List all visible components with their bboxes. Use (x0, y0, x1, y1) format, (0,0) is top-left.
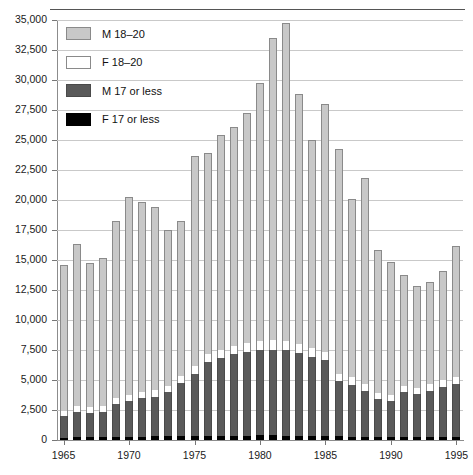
x-tick-mark (325, 440, 326, 445)
bar[interactable] (439, 271, 447, 440)
bar[interactable] (335, 149, 343, 440)
segment-f-17-or-less (374, 437, 382, 440)
legend-item-f-18-20[interactable]: F 18–20 (66, 53, 162, 72)
segment-f-17-or-less (387, 437, 395, 440)
x-tick-label: 1985 (305, 450, 345, 461)
segment-f-17-or-less (230, 436, 238, 440)
segment-f-17-or-less (125, 437, 133, 440)
bar[interactable] (230, 127, 238, 440)
legend-label: M 18–20 (102, 28, 145, 40)
segment-m-18-20 (99, 258, 107, 407)
y-tick-label: 32,500 (0, 44, 47, 54)
y-tick-mark (52, 440, 57, 441)
segment-f-17-or-less (243, 436, 251, 440)
bar[interactable] (86, 263, 94, 440)
bar[interactable] (282, 23, 290, 440)
legend-item-m-17-or-less[interactable]: M 17 or less (66, 81, 162, 100)
bar[interactable] (125, 197, 133, 440)
segment-f-18-20 (256, 341, 264, 350)
bar[interactable] (361, 178, 369, 440)
bar[interactable] (217, 135, 225, 440)
segment-f-18-20 (321, 352, 329, 360)
segment-f-17-or-less (282, 436, 290, 440)
legend-label: F 18–20 (102, 56, 142, 68)
segment-f-17-or-less (204, 436, 212, 440)
y-tick-label: 30,000 (0, 74, 47, 84)
bar[interactable] (269, 38, 277, 440)
segment-m-18-20 (125, 197, 133, 394)
segment-m-17-or-less (164, 392, 172, 436)
bar[interactable] (374, 250, 382, 440)
segment-m-17-or-less (99, 412, 107, 437)
dark-gray-swatch-icon (66, 84, 91, 97)
segment-m-18-20 (295, 94, 303, 344)
segment-f-17-or-less (439, 437, 447, 440)
segment-m-17-or-less (256, 350, 264, 436)
segment-f-17-or-less (348, 437, 356, 440)
segment-m-17-or-less (177, 383, 185, 436)
segment-m-18-20 (230, 127, 238, 345)
segment-f-17-or-less (413, 437, 421, 440)
segment-m-17-or-less (138, 398, 146, 436)
y-tick-label: 27,500 (0, 104, 47, 114)
bar[interactable] (400, 275, 408, 440)
bar[interactable] (138, 202, 146, 440)
legend-item-f-17-or-less[interactable]: F 17 or less (66, 110, 162, 129)
segment-m-18-20 (191, 156, 199, 366)
bar[interactable] (191, 156, 199, 440)
segment-m-17-or-less (282, 350, 290, 435)
bar[interactable] (413, 286, 421, 440)
segment-m-17-or-less (439, 387, 447, 437)
bar[interactable] (164, 230, 172, 440)
segment-m-18-20 (452, 246, 460, 377)
segment-m-17-or-less (73, 412, 81, 437)
segment-m-18-20 (387, 262, 395, 395)
bar[interactable] (387, 262, 395, 440)
light-gray-swatch-icon (66, 27, 91, 40)
segment-m-18-20 (400, 275, 408, 385)
segment-m-18-20 (138, 202, 146, 392)
bar[interactable] (60, 265, 68, 440)
segment-f-17-or-less (295, 436, 303, 440)
legend: M 18–20 F 18–20 M 17 or less F 17 or les… (66, 24, 162, 138)
x-tick-label: 1995 (436, 450, 473, 461)
bar[interactable] (99, 258, 107, 440)
segment-m-18-20 (426, 282, 434, 384)
bar[interactable] (73, 244, 81, 440)
legend-item-m-18-20[interactable]: M 18–20 (66, 24, 162, 43)
segment-f-17-or-less (177, 436, 185, 440)
segment-m-17-or-less (387, 401, 395, 438)
segment-f-18-20 (177, 376, 185, 383)
bar[interactable] (308, 140, 316, 440)
bar[interactable] (204, 153, 212, 440)
segment-m-18-20 (335, 149, 343, 373)
segment-m-18-20 (374, 250, 382, 393)
bar[interactable] (256, 83, 264, 440)
y-tick-label: 35,000 (0, 14, 47, 24)
segment-f-18-20 (282, 341, 290, 350)
bar[interactable] (177, 221, 185, 440)
y-tick-label: 7,500 (0, 344, 47, 354)
y-tick-label: 12,500 (0, 284, 47, 294)
segment-m-18-20 (112, 221, 120, 398)
y-tick-label: 22,500 (0, 164, 47, 174)
segment-m-18-20 (217, 135, 225, 350)
bar[interactable] (426, 282, 434, 440)
segment-m-18-20 (269, 38, 277, 340)
x-tick-label: 1975 (175, 450, 215, 461)
bar[interactable] (452, 246, 460, 440)
segment-f-18-20 (164, 386, 172, 393)
x-tick-mark (64, 440, 65, 445)
bar[interactable] (112, 221, 120, 440)
segment-f-17-or-less (151, 436, 159, 440)
bar[interactable] (348, 199, 356, 440)
segment-f-18-20 (335, 374, 343, 381)
bar[interactable] (151, 207, 159, 440)
segment-f-18-20 (217, 350, 225, 358)
bar[interactable] (243, 113, 251, 440)
x-tick-mark (456, 440, 457, 445)
bar[interactable] (295, 94, 303, 440)
segment-f-17-or-less (191, 436, 199, 440)
bar[interactable] (321, 104, 329, 440)
segment-m-17-or-less (112, 404, 120, 437)
